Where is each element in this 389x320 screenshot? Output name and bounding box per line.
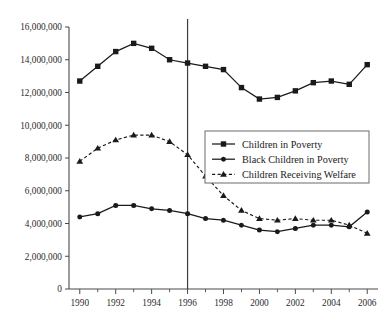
data-point-marker	[238, 207, 245, 213]
data-point-marker	[329, 78, 334, 83]
x-axis-tick-label: 1992	[106, 298, 125, 308]
series-2	[77, 203, 369, 234]
data-point-marker	[167, 208, 172, 213]
x-axis-tick-label: 2006	[358, 298, 377, 308]
data-point-marker	[275, 229, 280, 234]
data-point-marker	[329, 223, 334, 228]
data-point-marker	[95, 64, 100, 69]
data-point-marker	[203, 216, 208, 221]
data-point-marker	[185, 211, 190, 216]
x-axis-tick-label: 1996	[178, 298, 197, 308]
data-point-marker	[275, 95, 280, 100]
x-axis-tick-label: 2000	[250, 298, 269, 308]
x-axis-tick-label: 2002	[286, 298, 305, 308]
data-point-marker	[221, 67, 226, 72]
data-point-marker	[95, 211, 100, 216]
chart-container: 02,000,0004,000,0006,000,0008,000,00010,…	[0, 0, 389, 320]
data-point-marker	[365, 210, 370, 215]
y-axis-tick-label: 6,000,000	[25, 186, 63, 196]
data-point-marker	[148, 132, 155, 138]
data-point-marker	[184, 151, 191, 157]
y-axis-tick-label: 0	[57, 284, 62, 294]
y-axis-tick-label: 14,000,000	[20, 55, 62, 65]
data-point-marker	[239, 85, 244, 90]
y-axis-tick-label: 4,000,000	[25, 219, 63, 229]
y-axis-tick-label: 10,000,000	[20, 121, 62, 131]
data-point-marker	[131, 203, 136, 208]
y-axis-tick-label: 12,000,000	[20, 88, 62, 98]
x-axis-tick-label: 2004	[322, 298, 341, 308]
data-point-marker	[239, 223, 244, 228]
line-chart: 02,000,0004,000,0006,000,0008,000,00010,…	[0, 0, 389, 320]
data-point-marker	[149, 206, 154, 211]
data-point-marker	[293, 88, 298, 93]
y-axis-ticks: 02,000,0004,000,0006,000,0008,000,00010,…	[20, 22, 69, 294]
data-point-marker	[221, 157, 226, 162]
data-point-marker	[293, 226, 298, 231]
y-axis-tick-label: 16,000,000	[20, 22, 62, 32]
data-point-marker	[257, 228, 262, 233]
legend-label: Children Receiving Welfare	[242, 169, 356, 180]
data-point-marker	[77, 214, 82, 219]
data-point-marker	[221, 141, 226, 146]
legend-label: Children in Poverty	[242, 139, 323, 150]
y-axis-tick-label: 2,000,000	[25, 252, 63, 262]
data-point-marker	[149, 46, 154, 51]
chart-legend: Children in PovertyBlack Children in Pov…	[205, 131, 369, 183]
data-point-marker	[131, 41, 136, 46]
data-point-marker	[77, 78, 82, 83]
data-point-marker	[112, 137, 119, 143]
series-1	[77, 41, 370, 102]
x-axis-tick-label: 1998	[214, 298, 233, 308]
data-point-marker	[113, 203, 118, 208]
data-point-marker	[311, 223, 316, 228]
data-point-marker	[221, 218, 226, 223]
data-point-marker	[347, 82, 352, 87]
data-point-marker	[76, 158, 83, 164]
data-point-marker	[292, 215, 299, 221]
data-point-marker	[167, 57, 172, 62]
legend-label: Black Children in Poverty	[242, 154, 350, 165]
x-axis-tick-label: 1994	[142, 298, 161, 308]
data-point-marker	[365, 62, 370, 67]
data-point-marker	[203, 64, 208, 69]
x-axis-ticks: 199019921994199619982000200220042006	[70, 289, 376, 308]
data-point-marker	[185, 60, 190, 65]
x-axis-tick-label: 1990	[70, 298, 89, 308]
y-axis-tick-label: 8,000,000	[25, 153, 63, 163]
data-point-marker	[113, 49, 118, 54]
data-point-marker	[311, 80, 316, 85]
data-point-marker	[257, 96, 262, 101]
